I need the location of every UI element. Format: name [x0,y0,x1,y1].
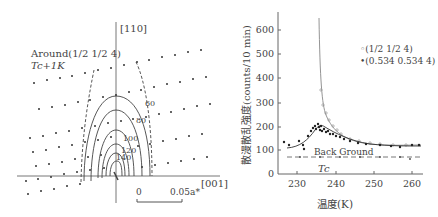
right-scatter-plot: 0 100 200 300 400 500 600 230 240 250 26… [240,12,435,210]
svg-text:60: 60 [145,99,155,108]
x-tick-labels: 230 240 250 260 [288,178,421,189]
svg-text:500: 500 [256,48,274,59]
svg-text:240: 240 [327,178,345,189]
x-axis-label: 温度(K) [317,198,353,210]
svg-text:80: 80 [136,116,146,125]
svg-text:300: 300 [256,97,274,108]
legend: ◦(1/2 1/2 4) •(0.534 0.534 4) [360,44,435,66]
svg-text:250: 250 [365,178,383,189]
y-axis-label: 散漫散乱強度(counts/10 min) [240,25,252,165]
svg-text:0.05a*: 0.05a* [170,187,200,197]
svg-text:140: 140 [116,153,131,162]
tc-label: Tc [318,163,330,174]
svg-text:600: 600 [256,24,274,35]
svg-text:200: 200 [256,121,274,132]
svg-text:100: 100 [256,144,274,155]
figure-svg: [110] [001] Around(1/2 1/2 4) Tc+1K [0,0,438,217]
svg-text:0: 0 [136,187,142,197]
left-contour-plot: [110] [001] Around(1/2 1/2 4) Tc+1K [17,22,228,203]
series-half-points [320,89,407,146]
contour-dashed [81,70,94,182]
legend-item-0534: •(0.534 0.534 4) [360,56,435,66]
y-tick-labels: 0 100 200 300 400 500 600 [256,24,274,179]
axis-110-label: [110] [120,23,147,34]
plot-title: Around(1/2 1/2 4) [30,48,121,59]
svg-text:400: 400 [256,72,274,83]
svg-text:260: 260 [403,178,421,189]
axis-001-label: [001] [201,178,228,189]
svg-text:230: 230 [288,178,306,189]
figure: [110] [001] Around(1/2 1/2 4) Tc+1K [0,0,438,217]
background-label: Back Ground [314,147,374,157]
svg-text:0: 0 [268,168,274,179]
contour-60 [84,96,150,181]
svg-text:100: 100 [123,134,138,143]
scale-bar: 0 0.05a* [136,187,200,202]
plot-subtitle: Tc+1K [31,60,65,71]
legend-item-half: ◦(1/2 1/2 4) [360,44,413,54]
